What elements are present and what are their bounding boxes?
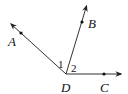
label-b: B	[88, 16, 96, 31]
label-c: C	[100, 80, 109, 94]
point-b-dot	[80, 20, 83, 23]
angle-2-label: 2	[71, 62, 77, 74]
point-c-dot	[102, 72, 105, 75]
angle-1-label: 1	[58, 58, 64, 70]
label-a: A	[7, 34, 16, 49]
point-a-dot	[19, 31, 22, 34]
angle-diagram: A B C D 1 2	[0, 0, 128, 94]
label-d: D	[60, 80, 71, 94]
